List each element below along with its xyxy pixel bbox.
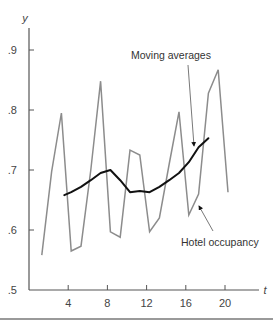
hotel-occupancy-line [42,70,228,255]
x-tick-label: 16 [180,297,192,309]
y-tick-label: .5 [8,284,17,296]
bottom-divider [0,318,273,320]
hotel-occupancy-label: Hotel occupancy [181,236,259,248]
time-series-chart: .5.6.7.8.948121620yt Moving averagesHote… [0,0,273,324]
x-tick-label: 4 [65,297,71,309]
x-tick-label: 12 [140,297,152,309]
x-axis-label: t [263,284,267,296]
y-tick-label: .8 [8,104,17,116]
y-tick-label: .6 [8,224,17,236]
moving-averages-label: Moving averages [131,49,211,61]
y-axis-label: y [21,12,29,24]
y-tick-label: .7 [8,164,17,176]
x-tick-label: 8 [104,297,110,309]
annotations: Moving averagesHotel occupancy [131,49,259,248]
y-tick-label: .9 [8,44,17,56]
x-tick-label: 20 [219,297,231,309]
